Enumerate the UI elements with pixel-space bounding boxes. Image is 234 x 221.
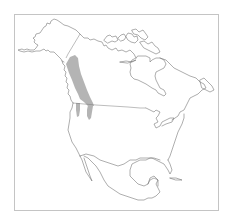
arctic-islands [104,29,160,63]
hudson-bay-outline [130,56,166,96]
baja-california [80,156,92,181]
mexico-coast [84,156,160,200]
labrador-coast [160,58,206,120]
alaska-outline [18,19,80,62]
arctic-coast [80,34,136,58]
range-area-south-west [76,103,80,117]
great-lakes [146,108,174,128]
range-area-south-east [87,105,93,120]
species-range [66,55,94,120]
caribbean-islands [170,178,182,180]
alaska-yukon-border [66,34,80,58]
us-east-coast [168,114,184,160]
north-america-range-map [0,0,234,221]
canada-us-border [73,103,146,108]
range-area-main [66,55,94,106]
